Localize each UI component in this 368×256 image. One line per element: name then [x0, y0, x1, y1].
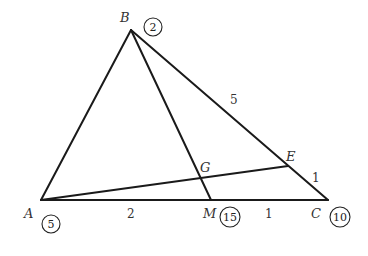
point-label-G: G [200, 160, 210, 175]
segment-AE [41, 166, 288, 200]
point-label-M: M [202, 206, 217, 221]
mass-badge-M: 15 [220, 207, 240, 227]
mass-value-C: 10 [333, 211, 347, 224]
length-label-EC: 1 [312, 171, 320, 185]
segment-BM [131, 30, 211, 200]
point-label-B: B [119, 10, 130, 25]
length-label-BE: 5 [230, 93, 238, 107]
mass-badge-A: 5 [42, 215, 60, 233]
length-label-AM: 2 [127, 207, 135, 221]
mass-value-M: 15 [223, 211, 237, 224]
mass-points-diagram: B A M C E G 2 5 15 10 2 1 5 1 [0, 0, 368, 256]
mass-badge-B: 2 [144, 18, 162, 36]
mass-badge-C: 10 [330, 207, 350, 227]
point-label-E: E [285, 149, 296, 164]
mass-value-A: 5 [48, 218, 55, 231]
length-label-MC: 1 [265, 207, 273, 221]
point-label-C: C [311, 206, 321, 221]
point-label-A: A [23, 206, 33, 221]
mass-value-B: 2 [150, 21, 157, 34]
segment-AB [41, 30, 131, 200]
